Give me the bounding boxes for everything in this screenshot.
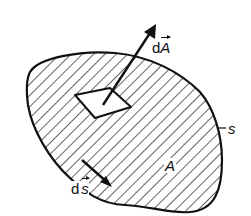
label-area-A: A xyxy=(164,158,176,173)
label-d: d xyxy=(71,180,79,197)
label-vector-A: A xyxy=(160,40,170,55)
diagram-canvas: dA s A ds xyxy=(0,0,251,216)
surface-diagram xyxy=(0,0,251,216)
label-vector-s: s xyxy=(81,181,89,196)
label-boundary-s: s xyxy=(228,121,236,136)
label-area-element: dA xyxy=(152,40,170,55)
label-line-element: ds xyxy=(71,181,89,196)
